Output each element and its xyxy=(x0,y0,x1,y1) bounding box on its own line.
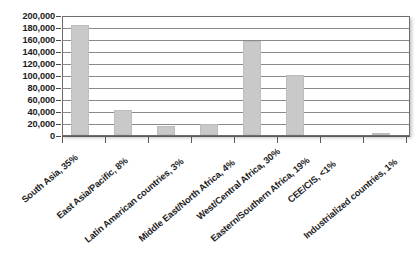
y-axis-tick-mark xyxy=(56,124,61,125)
x-axis-category-label: Industrialized countries, 1% xyxy=(302,157,399,241)
y-axis-tick-mark xyxy=(56,28,61,29)
x-axis-tick-mark xyxy=(191,137,192,143)
x-axis-tick-mark xyxy=(320,137,321,143)
x-axis-tick-mark xyxy=(363,137,364,143)
bar xyxy=(71,25,89,135)
bar xyxy=(372,133,390,135)
y-axis-tick-label: 200,000 xyxy=(22,11,55,21)
x-axis-category-label: South Asia, 35% xyxy=(20,152,80,204)
y-axis-tick-mark xyxy=(56,76,61,77)
x-axis-tick-mark xyxy=(105,137,106,143)
bars-layer xyxy=(63,17,409,135)
x-axis-tick-mark xyxy=(406,137,407,143)
bar xyxy=(114,110,132,135)
y-axis-tick-mark xyxy=(56,64,61,65)
plot-area xyxy=(62,16,410,136)
y-axis-tick-mark xyxy=(56,16,61,17)
y-axis-tick-label: 80,000 xyxy=(27,83,55,93)
bar xyxy=(200,124,218,135)
x-axis-category-label: CEE/CIS, <1% xyxy=(286,159,338,205)
x-axis-tick-mark xyxy=(234,137,235,143)
y-axis-tick-label: 0 xyxy=(50,131,55,141)
x-axis-category-label: Middle East/North Africa, 4% xyxy=(137,158,237,244)
y-axis-tick-mark xyxy=(56,112,61,113)
y-axis-tick-mark xyxy=(56,40,61,41)
bar xyxy=(243,41,261,135)
y-axis-tick-mark xyxy=(56,52,61,53)
x-axis-category-label: Eastern/Southern Africa, 19% xyxy=(209,155,312,243)
y-axis-tick-label: 120,000 xyxy=(22,59,55,69)
x-axis-category-label: Latin American countries, 3% xyxy=(83,156,186,244)
y-axis-tick-label: 140,000 xyxy=(22,47,55,57)
bar-chart: 200,000 180,000 160,000 140,000 120,000 … xyxy=(0,0,420,275)
y-axis-tick-label: 60,000 xyxy=(27,95,55,105)
x-axis-ticks xyxy=(62,137,410,144)
y-axis: 200,000 180,000 160,000 140,000 120,000 … xyxy=(0,12,62,139)
y-axis-tick-mark xyxy=(56,100,61,101)
bar xyxy=(157,126,175,135)
y-axis-tick-label: 180,000 xyxy=(22,23,55,33)
x-axis-tick-mark xyxy=(62,137,63,143)
y-axis-tick-label: 20,000 xyxy=(27,119,55,129)
y-axis-tick-label: 40,000 xyxy=(27,107,55,117)
x-axis-tick-mark xyxy=(277,137,278,143)
x-axis-category-label: East Asia/Pacific, 8% xyxy=(55,156,130,221)
x-axis-tick-mark xyxy=(148,137,149,143)
y-axis-tick-label: 160,000 xyxy=(22,35,55,45)
y-axis-tick-mark xyxy=(56,88,61,89)
x-axis-category-label: West/Central Africa, 30% xyxy=(195,146,282,221)
y-axis-tick-label: 100,000 xyxy=(22,71,55,81)
y-axis-tick-mark xyxy=(56,136,61,137)
bar xyxy=(286,75,304,135)
